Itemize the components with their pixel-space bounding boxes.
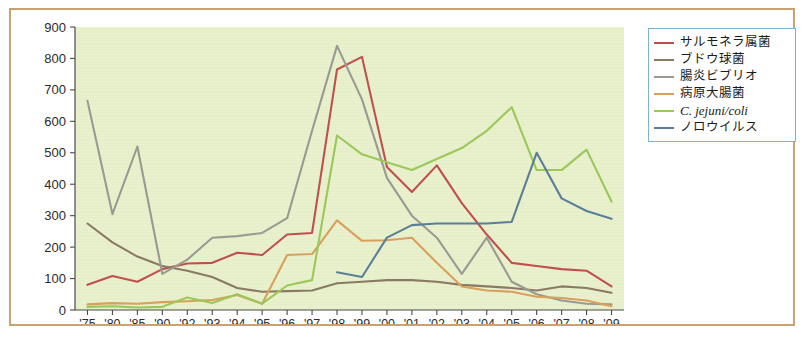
legend-label: ブドウ球菌 xyxy=(680,53,745,66)
legend-label: 病原大腸菌 xyxy=(680,87,745,100)
y-axis-tick-label: 400 xyxy=(44,177,66,192)
x-axis-tick-label: '95 xyxy=(254,317,270,324)
y-axis-tick-label: 700 xyxy=(44,82,66,97)
legend-line-swatch xyxy=(654,110,674,112)
y-axis-tick-label: 900 xyxy=(44,20,66,35)
x-axis-tick-label: '85 xyxy=(129,317,145,324)
y-axis-tick-label: 600 xyxy=(44,114,66,129)
x-axis-tick-label: '93 xyxy=(204,317,220,324)
legend-item-0: サルモネラ属菌 xyxy=(654,34,789,51)
y-axis-tick-label: 200 xyxy=(44,240,66,255)
x-axis-tick-label: '09 xyxy=(603,317,619,324)
legend-item-3: 病原大腸菌 xyxy=(654,85,789,102)
legend-item-5: ノロウイルス xyxy=(654,119,789,136)
x-axis-tick-label: '92 xyxy=(179,317,195,324)
x-axis-tick-label: '07 xyxy=(553,317,569,324)
x-axis-tick-label: '96 xyxy=(279,317,295,324)
x-axis-tick-label: '08 xyxy=(578,317,594,324)
x-axis-tick-label: '02 xyxy=(429,317,445,324)
legend-line-swatch xyxy=(654,127,674,129)
legend-line-swatch xyxy=(654,76,674,78)
x-axis-tick-label: '05 xyxy=(504,317,520,324)
legend-line-swatch xyxy=(654,93,674,95)
y-axis-tick-label: 0 xyxy=(59,303,66,318)
x-axis-tick-label: '80 xyxy=(104,317,120,324)
chart-legend: サルモネラ属菌ブドウ球菌腸炎ビブリオ病原大腸菌C. jejuni/coliノロウ… xyxy=(648,28,796,142)
legend-label: ノロウイルス xyxy=(680,121,758,134)
y-axis-tick-label: 500 xyxy=(44,145,66,160)
x-axis-tick-label: '06 xyxy=(529,317,545,324)
legend-item-4: C. jejuni/coli xyxy=(654,102,789,119)
x-axis-tick-label: '99 xyxy=(354,317,370,324)
x-axis-tick-label: '94 xyxy=(229,317,245,324)
x-axis-tick-label: '75 xyxy=(79,317,95,324)
legend-label: サルモネラ属菌 xyxy=(680,36,771,49)
legend-line-swatch xyxy=(654,59,674,61)
x-axis-tick-label: '97 xyxy=(304,317,320,324)
x-axis-tick-label: '04 xyxy=(479,317,495,324)
legend-label: 腸炎ビブリオ xyxy=(680,70,758,83)
chart-frame: 0100200300400500600700800900 '75'80'85'9… xyxy=(9,8,795,326)
x-axis-tick-label: '98 xyxy=(329,317,345,324)
x-axis-tick-label: '00 xyxy=(379,317,395,324)
y-axis-tick-label: 300 xyxy=(44,208,66,223)
x-axis-tick-label: '01 xyxy=(404,317,420,324)
x-axis-tick-label: '03 xyxy=(454,317,470,324)
x-axis-tick-label: '90 xyxy=(154,317,170,324)
y-axis-tick-label: 100 xyxy=(44,271,66,286)
legend-line-swatch xyxy=(654,42,674,44)
legend-label: C. jejuni/coli xyxy=(680,104,748,117)
legend-item-1: ブドウ球菌 xyxy=(654,51,789,68)
legend-item-2: 腸炎ビブリオ xyxy=(654,68,789,85)
y-axis-tick-label: 800 xyxy=(44,51,66,66)
